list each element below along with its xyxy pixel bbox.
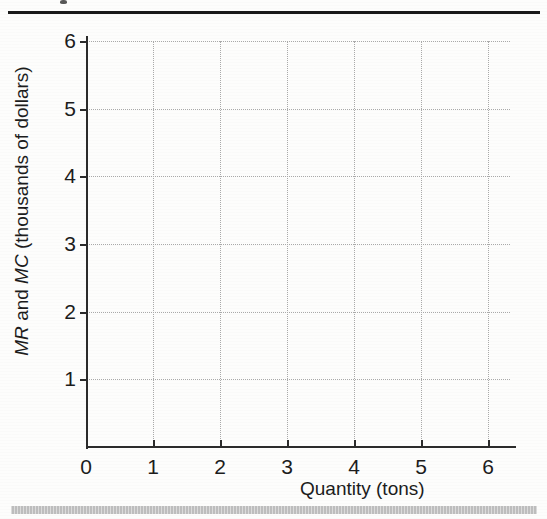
bottom-gray-bar	[11, 506, 537, 514]
gridline-horizontal	[86, 176, 510, 178]
y-axis-tick-label: 5	[50, 98, 76, 119]
x-axis-title: Quantity (tons)	[300, 478, 530, 500]
y-axis-tick-label: 1	[50, 368, 76, 389]
y-axis-title-and: and	[11, 284, 32, 326]
x-axis-tick	[287, 440, 289, 448]
gridline-vertical	[354, 41, 356, 447]
y-axis-tick	[80, 109, 88, 111]
x-axis-tick	[488, 440, 490, 448]
x-axis-tick	[421, 440, 423, 448]
y-axis-title: MR and MC (thousands of dollars)	[11, 61, 33, 361]
x-axis-tick-label: 6	[473, 456, 503, 477]
y-axis-tick-label: 6	[50, 30, 76, 51]
gridline-vertical	[220, 41, 222, 447]
y-axis-tick	[80, 41, 88, 43]
gridline-horizontal	[86, 109, 510, 111]
x-axis-tick-label: 2	[205, 456, 235, 477]
x-axis-tick	[220, 440, 222, 448]
x-axis-tick-label: 1	[138, 456, 168, 477]
gridline-horizontal	[86, 379, 510, 381]
gridline-vertical	[421, 41, 423, 447]
x-axis-tick-label: 4	[339, 456, 369, 477]
y-axis-tick	[80, 244, 88, 246]
gridline-vertical	[153, 41, 155, 447]
chart-figure: 123456 0123456 MR and MC (thousands of d…	[0, 0, 547, 519]
y-axis-tick-label: 4	[50, 165, 76, 186]
x-axis-tick-label: 0	[71, 456, 101, 477]
y-axis-title-units: (thousands of dollars)	[11, 66, 32, 254]
gridline-vertical	[287, 41, 289, 447]
gridline-horizontal	[86, 244, 510, 246]
y-axis-title-mc: MC	[11, 254, 32, 284]
y-axis-title-mr: MR	[11, 326, 32, 356]
x-axis-tick	[354, 440, 356, 448]
y-axis-tick	[80, 379, 88, 381]
y-axis-tick	[80, 176, 88, 178]
gridline-horizontal	[86, 312, 510, 314]
x-axis-tick	[153, 440, 155, 448]
y-axis-tick-label: 2	[50, 301, 76, 322]
x-axis-tick-label: 5	[406, 456, 436, 477]
y-axis-tick-label: 3	[50, 233, 76, 254]
plot-area	[86, 41, 515, 447]
x-axis-tick-label: 3	[272, 456, 302, 477]
y-axis-tick	[80, 312, 88, 314]
gridline-vertical	[488, 41, 490, 447]
gridline-horizontal	[86, 41, 510, 43]
